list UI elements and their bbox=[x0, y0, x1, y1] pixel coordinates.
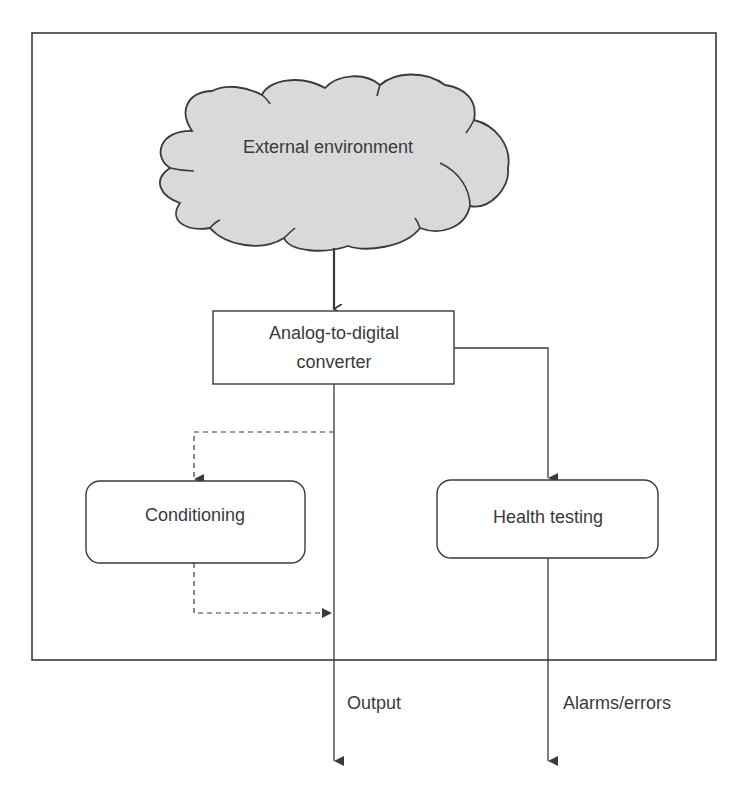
diagram-canvas: External environment Analog-to-digital c… bbox=[0, 0, 743, 786]
adc-label-line2: converter bbox=[269, 348, 399, 377]
edge-adc-to-conditioning bbox=[194, 432, 334, 479]
external-environment-cloud bbox=[160, 74, 509, 250]
alarms-errors-label: Alarms/errors bbox=[563, 692, 671, 714]
health-testing-label: Health testing bbox=[493, 506, 603, 528]
diagram-graphics bbox=[0, 0, 743, 786]
edge-adc-to-health-testing bbox=[454, 348, 548, 478]
external-environment-label: External environment bbox=[243, 136, 413, 158]
conditioning-label: Conditioning bbox=[145, 504, 245, 526]
output-label: Output bbox=[347, 692, 401, 714]
edge-conditioning-to-output bbox=[194, 563, 332, 613]
adc-label-line1: Analog-to-digital bbox=[269, 319, 399, 348]
adc-label: Analog-to-digital converter bbox=[269, 319, 399, 377]
